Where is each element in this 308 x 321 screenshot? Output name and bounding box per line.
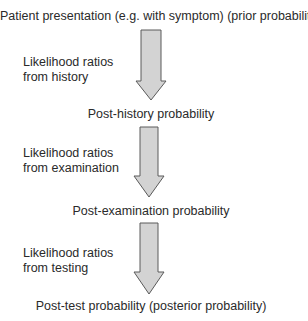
flow-arrows [0,0,308,321]
down-arrow-icon [134,127,164,197]
down-arrow-icon [134,223,164,294]
down-arrow-icon [136,30,166,100]
